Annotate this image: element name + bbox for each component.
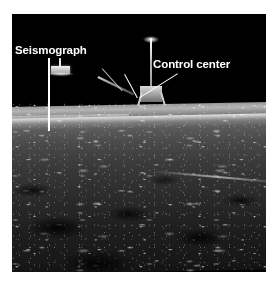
figure-root: Seismograph Control center (0, 0, 276, 286)
lunar-surface-photograph: Seismograph Control center (12, 14, 266, 272)
lunar-ground (12, 102, 266, 272)
crater-shadows (12, 102, 266, 272)
control-center-body (140, 86, 162, 102)
seismograph-unit (48, 58, 74, 76)
seismograph-skirt (48, 72, 74, 76)
control-center-unit (130, 38, 174, 108)
